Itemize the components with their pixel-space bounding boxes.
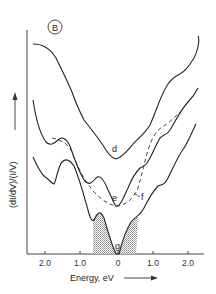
svg-text:B: B: [52, 23, 58, 33]
svg-text:1.0: 1.0: [74, 258, 86, 268]
y-axis-label: (dI/dV)/(I/V): [8, 161, 18, 208]
x-axis-label: Energy, eV: [70, 273, 114, 283]
svg-text:2.0: 2.0: [39, 258, 51, 268]
curve-g-label: g: [115, 241, 120, 251]
x-tick-labels: 2.0 1.0 0 1.0 2.0: [39, 258, 194, 268]
curve-e-label: e: [112, 193, 117, 203]
curve-f-label: f: [141, 192, 144, 202]
svg-text:1.0: 1.0: [147, 258, 159, 268]
svg-text:0: 0: [116, 258, 121, 268]
curve-d-label: d: [112, 144, 117, 154]
svg-text:2.0: 2.0: [182, 258, 194, 268]
panel-label: B: [48, 20, 62, 34]
arrow-right-icon: [124, 276, 158, 281]
curve-f: [52, 110, 182, 206]
arrow-up-icon: [13, 92, 18, 130]
chart-canvas: B 2.0 1.0 0 1.0 2.0 Energy, eV (dI/dV)/(…: [0, 0, 216, 294]
